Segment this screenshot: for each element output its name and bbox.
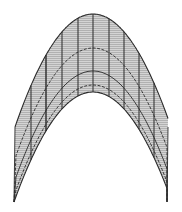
surface-shading bbox=[14, 14, 168, 202]
surface-fill-region bbox=[14, 14, 168, 202]
diagram-figure: Parabolic arch surface mesh bbox=[0, 0, 182, 212]
arch-surface-diagram bbox=[0, 0, 182, 212]
